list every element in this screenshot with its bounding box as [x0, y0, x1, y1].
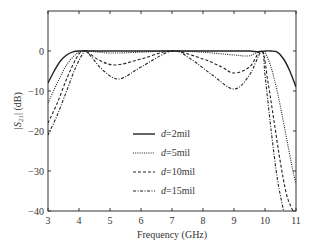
svg-text:d=15mil: d=15mil — [161, 185, 195, 196]
x-tick-labels: 3 4 5 6 7 8 9 10 11 — [46, 215, 301, 226]
svg-text:d=10mil: d=10mil — [161, 166, 195, 177]
y-tick-label: −20 — [28, 126, 44, 137]
svg-text:d=2mil: d=2mil — [161, 128, 190, 139]
legend-item-d2: d=2mil — [133, 128, 190, 139]
y-tick-label: −30 — [28, 166, 44, 177]
x-tick-label: 3 — [46, 215, 51, 226]
y-axis-label: |S21| (dB) — [12, 92, 25, 130]
y-tick-labels: 0 −10 −20 −30 −40 — [28, 46, 44, 217]
x-tick-label: 7 — [170, 215, 175, 226]
x-tick-label: 5 — [108, 215, 113, 226]
y-label-main: |S — [12, 122, 23, 130]
svg-text:|S21| (dB): |S21| (dB) — [12, 92, 25, 130]
s21-frequency-chart: 3 4 5 6 7 8 9 10 11 0 −10 −20 −30 −40 Fr… — [0, 0, 314, 245]
y-tick-label: −10 — [28, 86, 44, 97]
axes-frame — [48, 11, 296, 211]
y-label-tail: | (dB) — [12, 92, 24, 115]
x-tick-label: 11 — [291, 215, 301, 226]
y-tick-label: −40 — [28, 206, 44, 217]
x-tick-label: 9 — [232, 215, 237, 226]
series-line-d2mil — [48, 51, 296, 87]
series-line-d5mil — [48, 51, 296, 183]
plot-area — [48, 11, 296, 211]
y-label-sub: 21 — [17, 115, 25, 122]
legend-item-d10: d=10mil — [133, 166, 195, 177]
svg-text:d=5mil: d=5mil — [161, 147, 190, 158]
x-tick-label: 8 — [201, 215, 206, 226]
x-axis-label: Frequency (GHz) — [137, 229, 207, 241]
legend: d=2mil d=5mil d=10mil d=15mil — [133, 128, 195, 196]
axis-ticks — [48, 11, 296, 211]
x-tick-label: 6 — [139, 215, 144, 226]
legend-item-d15: d=15mil — [133, 185, 195, 196]
x-tick-label: 4 — [77, 215, 82, 226]
x-tick-label: 10 — [260, 215, 270, 226]
legend-item-d5: d=5mil — [133, 147, 190, 158]
y-tick-label: 0 — [39, 46, 44, 57]
